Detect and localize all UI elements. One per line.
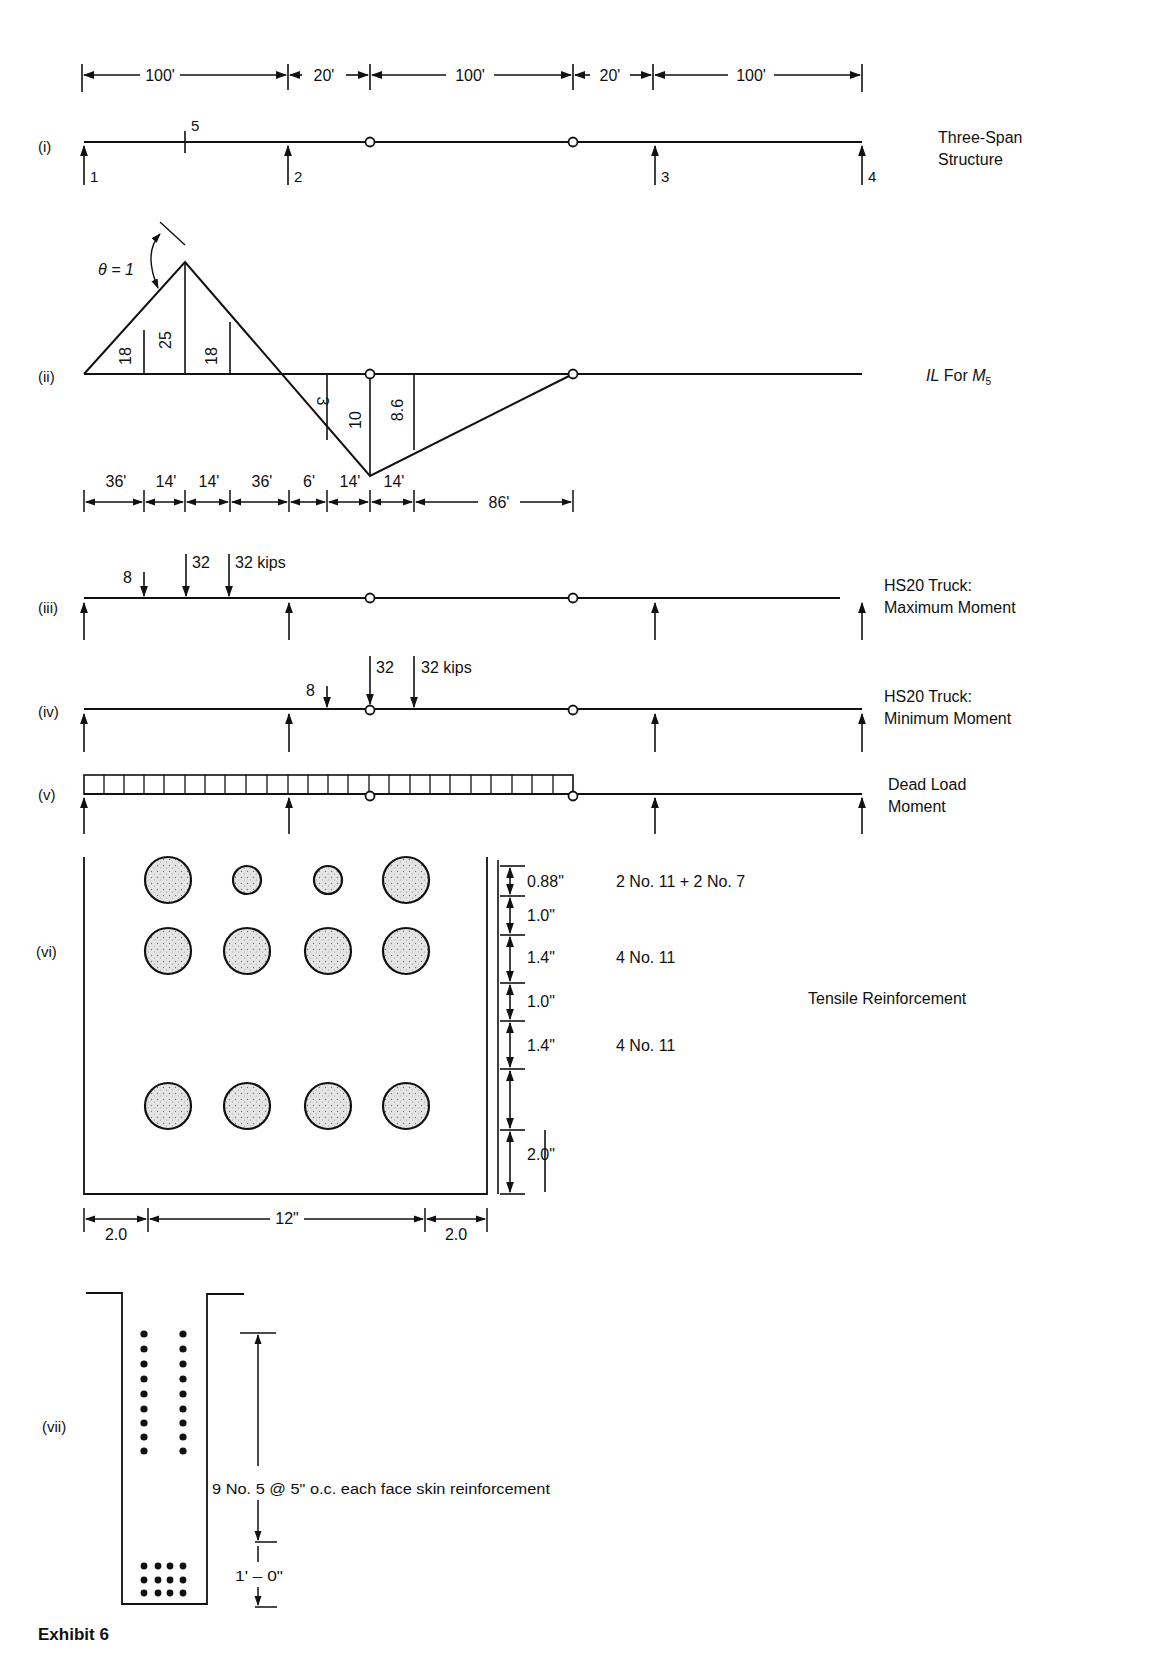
rebar-no11-icon [224,928,270,974]
support-arrows [84,146,862,185]
vdim-2-0: 2.0" [527,1146,555,1163]
point-5-label: 5 [191,117,199,134]
ordinate-8-6: 8.6 [389,399,406,421]
span-dim-3: 100' [455,67,485,84]
influence-line-shape [84,262,573,476]
il-dim-14-b: 14' [199,473,220,490]
hinge-icon [569,706,578,715]
theta-label: θ = 1 [98,261,134,278]
hinge-icon [366,138,375,147]
hinge-icon [366,792,375,801]
il-dim-36-b: 36' [252,473,273,490]
rebar-no11-icon [145,928,191,974]
panel-iii-title-line1: HS20 Truck: [884,577,972,594]
exhibit-title: Exhibit 6 [38,1625,109,1644]
panel-iv-title-line1: HS20 Truck: [884,688,972,705]
support-label-4: 4 [868,168,876,185]
il-dim-14-d: 14' [384,473,405,490]
support-arrows [84,603,862,640]
rebar-no11-icon [224,1083,270,1129]
vdim-1-0-b: 1.0" [527,993,555,1010]
beam-section-outline [84,857,487,1194]
rebar-no11-icon [305,1083,351,1129]
panel-vi-tensile-reinforcement: (vi) [36,857,967,1243]
il-dim-14-c: 14' [340,473,361,490]
span-dim-4: 20' [600,67,621,84]
panel-v-title-line2: Moment [888,798,946,815]
rebar-no11-icon [145,857,191,903]
truck-load-arrows [327,656,414,707]
il-dim-36-a: 36' [106,473,127,490]
theta-reference-line [160,222,185,245]
rebar-no11-icon [383,1083,429,1129]
ordinate-25: 25 [157,331,174,349]
hdim-2-0-left: 2.0 [105,1226,127,1243]
panel-iii-title-line2: Maximum Moment [884,599,1016,616]
girder-outline [86,1293,244,1604]
rebar-layer-bottom [145,1083,429,1129]
panel-ii-title: IL For M5 [926,367,992,387]
il-dim-6: 6' [303,473,315,490]
load-32: 32 [192,554,210,571]
theta-arc-icon [151,234,160,288]
panel-vii-girder-section: (vii) 9 No. 5 @ 5" o.c. each face skin r… [42,1293,551,1607]
hinge-icon [569,138,578,147]
tensile-bar-group [141,1563,187,1597]
panel-iv-hs20-minimum: (iv) 8 32 32 kips HS20 Truck: Minimum Mo… [38,656,1012,752]
vdim-0-88: 0.88" [527,873,564,890]
panel-tag-ii: (ii) [38,368,55,385]
hinge-icon [569,370,578,379]
panel-tag-vi: (vi) [36,943,57,960]
rebar-no11-icon [383,857,429,903]
support-label-2: 2 [294,168,302,185]
hdim-2-0-right: 2.0 [445,1226,467,1243]
truck-load-arrows [144,554,229,596]
panel-v-dead-load: (v) Dead Load Moment [38,775,966,834]
hinge-icon [569,792,578,801]
skin-reinforcement-bars [140,1330,186,1454]
layer-label-top: 2 No. 11 + 2 No. 7 [616,873,745,890]
rebar-layer-middle [145,928,429,974]
panel-i-title-line1: Three-Span [938,129,1023,146]
panel-iii-hs20-maximum: (iii) 8 32 32 kips HS20 Truck: Maximum M… [38,554,1016,640]
panel-tag-iii: (iii) [38,599,58,616]
load-8: 8 [306,682,315,699]
vdim-1-4-a: 1.4" [527,949,555,966]
panel-tag-vii: (vii) [42,1418,66,1435]
rebar-no7-icon [314,866,342,894]
il-dim-14-a: 14' [156,473,177,490]
hinge-icon [366,706,375,715]
ordinate-3: 3 [314,397,331,406]
skin-reinforcement-label: 9 No. 5 @ 5" o.c. each face skin reinfor… [212,1480,551,1497]
rebar-no7-icon [233,866,261,894]
girder-dimension-lines [240,1333,277,1607]
girder-dim-1-ft: 1' – 0" [235,1567,283,1584]
hinge-icon [366,370,375,379]
hdim-12: 12" [275,1210,298,1227]
vdim-1-4-b: 1.4" [527,1037,555,1054]
panel-i-title-line2: Structure [938,151,1003,168]
ordinate-10: 10 [347,411,364,429]
hinge-icon [569,594,578,603]
rebar-no11-icon [383,928,429,974]
support-label-1: 1 [90,168,98,185]
panel-iv-title-line2: Minimum Moment [884,710,1012,727]
panel-vi-title: Tensile Reinforcement [808,990,967,1007]
ordinate-18-left: 18 [117,347,134,365]
panel-tag-v: (v) [38,786,56,803]
panel-tag-i: (i) [38,138,51,155]
panel-i-three-span-structure: 100' 20' 100' 20' 100' (i) 5 1 2 3 4 Thr… [38,64,1023,185]
rebar-no11-icon [305,928,351,974]
load-32-kips: 32 kips [235,554,286,571]
panel-v-title-line1: Dead Load [888,776,966,793]
rebar-layer-top [145,857,429,903]
span-dim-2: 20' [314,67,335,84]
ordinate-lines [144,262,414,476]
load-32-kips: 32 kips [421,659,472,676]
panel-ii-influence-line: (ii) 18 25 18 3 10 8.6 θ = 1 IL For M5 [38,222,992,512]
ordinate-18-right: 18 [203,347,220,365]
il-dim-86: 86' [489,494,510,511]
span-dim-5: 100' [736,67,766,84]
load-32: 32 [376,659,394,676]
span-dim-1: 100' [145,67,175,84]
